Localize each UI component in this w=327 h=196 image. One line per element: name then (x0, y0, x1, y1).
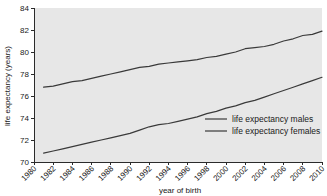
x-tick-label: 1994 (154, 164, 173, 183)
y-tick-label: 70 (20, 158, 29, 167)
legend-label: life expectancy females (232, 126, 320, 136)
y-tick-label: 72 (20, 136, 29, 145)
x-axis-title: year of birth (159, 186, 201, 195)
x-tick-label: 2008 (288, 164, 307, 183)
x-tick-label: 1984 (58, 164, 77, 183)
y-tick-label: 84 (20, 4, 29, 13)
chart-canvas: 7072747678808284 19801982198419861988199… (0, 0, 327, 196)
y-tick-label: 76 (20, 92, 29, 101)
x-tick-label: 2004 (250, 164, 269, 183)
y-tick-label: 78 (20, 70, 29, 79)
y-axis-ticks: 7072747678808284 (20, 4, 34, 167)
x-tick-label: 1992 (135, 164, 154, 183)
x-axis-ticks: 1980198219841986198819901992199419961998… (19, 162, 326, 183)
y-tick-label: 74 (20, 114, 29, 123)
x-tick-label: 1990 (115, 164, 134, 183)
x-tick-label: 1982 (39, 164, 58, 183)
x-tick-label: 1998 (192, 164, 211, 183)
x-tick-label: 2002 (231, 164, 250, 183)
x-tick-label: 1988 (96, 164, 115, 183)
y-axis-title: life expectancy (years) (3, 46, 12, 126)
x-tick-label: 1996 (173, 164, 192, 183)
life-expectancy-chart: 7072747678808284 19801982198419861988199… (0, 0, 327, 196)
x-tick-label: 2006 (269, 164, 288, 183)
x-tick-label: 2010 (307, 164, 326, 183)
legend-label: life expectancy males (232, 114, 313, 124)
x-tick-label: 1986 (77, 164, 96, 183)
plot-area-background (34, 8, 322, 162)
y-tick-label: 82 (20, 26, 29, 35)
x-tick-label: 2000 (211, 164, 230, 183)
y-tick-label: 80 (20, 48, 29, 57)
